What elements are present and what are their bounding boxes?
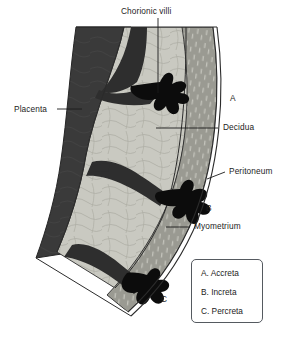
legend-item-accreta: A. Accreta	[201, 268, 239, 278]
label-placenta: Placenta	[14, 104, 47, 114]
label-myometrium: Myometrium	[194, 221, 241, 231]
legend-item-percreta: C. Percreta	[201, 306, 243, 316]
label-peritoneum: Peritoneum	[229, 166, 272, 176]
marker-c: C	[161, 294, 167, 304]
label-chorionic-villi: Chorionic villi	[121, 6, 171, 16]
legend-box: A. Accreta B. Increta C. Percreta	[191, 259, 263, 323]
legend-item-increta: B. Increta	[201, 287, 237, 297]
label-decidua: Decidua	[223, 122, 254, 132]
leader-peritoneum	[207, 172, 225, 179]
marker-b: B	[206, 203, 212, 213]
marker-a: A	[230, 93, 236, 103]
